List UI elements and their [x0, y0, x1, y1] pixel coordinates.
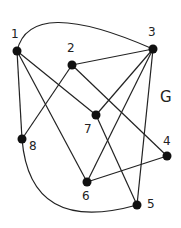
node-label-7: 7 [84, 122, 92, 136]
node-label-3: 3 [148, 25, 156, 39]
node-8 [18, 135, 27, 144]
node-3 [149, 45, 158, 54]
edge-2-8 [22, 65, 72, 139]
edge-7-5 [96, 115, 137, 205]
graph-nodes: 12345678 [11, 25, 172, 211]
node-1 [13, 47, 22, 56]
node-2 [68, 61, 77, 70]
node-6 [83, 178, 92, 187]
graph-edges [17, 22, 167, 212]
graph-name-label: G [160, 88, 172, 106]
edge-3-5 [137, 49, 153, 205]
node-7 [92, 111, 101, 120]
node-label-6: 6 [82, 189, 90, 203]
node-label-8: 8 [29, 139, 37, 153]
node-4 [163, 152, 172, 161]
edge-1-3 [17, 22, 153, 51]
edge-2-4 [72, 65, 167, 156]
node-label-1: 1 [11, 27, 19, 41]
node-label-5: 5 [147, 197, 155, 211]
edge-6-4 [87, 156, 167, 182]
graph-diagram: 12345678 G [0, 0, 181, 228]
edge-1-6 [17, 51, 87, 182]
node-label-4: 4 [163, 134, 171, 148]
node-label-2: 2 [67, 41, 75, 55]
edge-8-5 [22, 139, 137, 212]
node-5 [133, 201, 142, 210]
edge-1-7 [17, 51, 96, 115]
edge-1-8 [17, 51, 22, 139]
